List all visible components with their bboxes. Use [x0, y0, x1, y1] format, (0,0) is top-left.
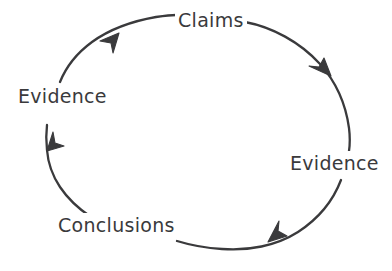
arrowhead-icon: [309, 58, 331, 76]
arrow-bottom-left: [46, 125, 91, 217]
node-label-evidence-left: Evidence: [15, 84, 110, 108]
arc-bottom-right-path: [177, 180, 341, 249]
cycle-diagram: Claims Evidence Conclusions Evidence: [0, 0, 392, 271]
node-label-claims: Claims: [175, 8, 247, 32]
node-label-conclusions: Conclusions: [55, 213, 178, 237]
node-label-evidence-right: Evidence: [287, 151, 382, 175]
arc-top-left-path: [60, 15, 176, 82]
arrow-top-left: [60, 15, 176, 82]
arrowhead-icon: [47, 132, 64, 151]
arrow-top-right: [245, 22, 350, 151]
arrow-bottom-right: [177, 180, 341, 249]
arc-top-right-path: [245, 22, 350, 151]
